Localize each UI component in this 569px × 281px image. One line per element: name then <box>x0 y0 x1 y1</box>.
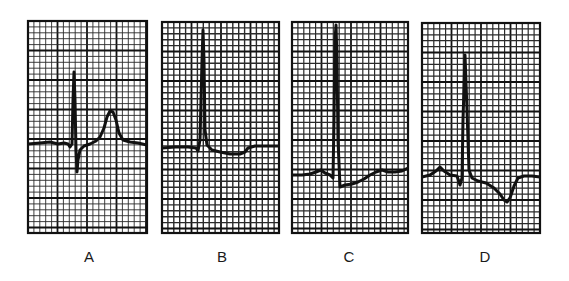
panel-label-d: D <box>480 249 491 264</box>
panel-label-c: C <box>344 249 355 264</box>
ecg-panel-b <box>162 22 279 233</box>
ecg-panel-a <box>28 21 147 233</box>
grid-paper <box>292 22 408 233</box>
ecg-figure <box>0 0 569 281</box>
ecg-panel-d <box>422 23 540 233</box>
panel-label-b: B <box>217 249 227 264</box>
grid-paper <box>422 23 540 233</box>
grid-paper <box>28 21 147 233</box>
ecg-panel-c <box>292 22 408 233</box>
ecg-panels <box>28 21 540 233</box>
panel-label-a: A <box>84 249 94 264</box>
grid-paper <box>162 22 279 233</box>
